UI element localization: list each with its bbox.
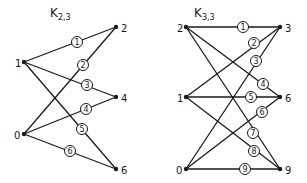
bipartite-graphs-diagram: K2,312345621406K3,3123456789231609 bbox=[0, 0, 307, 183]
vertex-label: 0 bbox=[14, 130, 20, 141]
edge-label: 5 bbox=[77, 124, 88, 135]
vertex-4 bbox=[114, 95, 118, 99]
edge-1-4 bbox=[24, 62, 116, 97]
vertex-label: 4 bbox=[121, 93, 127, 104]
edge-1-2 bbox=[24, 27, 116, 62]
edge-label-text: 2 bbox=[80, 61, 85, 70]
vertex-2 bbox=[114, 25, 118, 29]
vertex-label: 6 bbox=[121, 165, 127, 176]
edge-label: 8 bbox=[249, 146, 260, 157]
edge-label: 1 bbox=[238, 22, 249, 33]
edge-label: 2 bbox=[78, 60, 89, 71]
edge-label-text: 4 bbox=[260, 80, 265, 89]
edge-label-text: 9 bbox=[242, 165, 247, 174]
edge-label: 7 bbox=[248, 128, 259, 139]
vertex-6 bbox=[278, 95, 282, 99]
graph-title: K2,3 bbox=[50, 6, 71, 22]
edge-label-text: 3 bbox=[84, 81, 89, 90]
edge-label-text: 5 bbox=[79, 125, 84, 134]
edge-label-text: 5 bbox=[248, 93, 253, 102]
edge-label: 6 bbox=[257, 107, 268, 118]
vertex-0 bbox=[184, 167, 188, 171]
edge-label-text: 6 bbox=[259, 108, 264, 117]
edge-label-text: 7 bbox=[250, 129, 255, 138]
edge-label-text: 3 bbox=[253, 57, 258, 66]
vertex-label: 6 bbox=[285, 93, 291, 104]
vertex-label: 0 bbox=[176, 165, 182, 176]
graph-title: K3,3 bbox=[194, 6, 215, 22]
vertex-1 bbox=[184, 95, 188, 99]
vertex-label: 1 bbox=[15, 58, 21, 69]
vertex-label: 3 bbox=[285, 23, 291, 34]
edge-label-text: 2 bbox=[251, 39, 256, 48]
vertex-label: 2 bbox=[121, 23, 127, 34]
vertex-2 bbox=[184, 25, 188, 29]
vertex-0 bbox=[22, 132, 26, 136]
edge-0-2 bbox=[24, 27, 116, 134]
edge-label: 4 bbox=[81, 104, 92, 115]
edge-label: 3 bbox=[82, 80, 93, 91]
edge-label-text: 4 bbox=[83, 105, 88, 114]
vertex-6 bbox=[114, 167, 118, 171]
vertex-3 bbox=[278, 25, 282, 29]
edge-label-text: 6 bbox=[67, 147, 72, 156]
edge-label: 2 bbox=[249, 38, 260, 49]
edge-label: 9 bbox=[240, 164, 251, 175]
edge-label: 6 bbox=[65, 146, 76, 157]
vertex-label: 1 bbox=[177, 93, 183, 104]
edge-label: 1 bbox=[72, 37, 83, 48]
vertex-9 bbox=[278, 167, 282, 171]
vertex-1 bbox=[22, 60, 26, 64]
edge-label: 5 bbox=[246, 92, 257, 103]
graph-k33: K3,3123456789231609 bbox=[176, 6, 291, 176]
vertex-label: 9 bbox=[285, 165, 291, 176]
edge-label-text: 1 bbox=[240, 23, 245, 32]
edge-label-text: 1 bbox=[74, 38, 79, 47]
edge-label-text: 8 bbox=[251, 147, 256, 156]
graph-k23: K2,312345621406 bbox=[14, 6, 127, 176]
edge-label: 3 bbox=[251, 56, 262, 67]
edge-label: 4 bbox=[258, 79, 269, 90]
vertex-label: 2 bbox=[177, 23, 183, 34]
